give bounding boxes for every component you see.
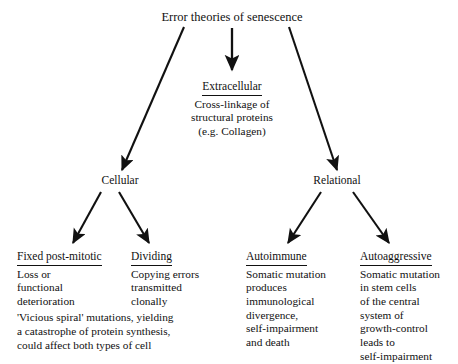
dividing-heading: Dividing	[131, 250, 172, 266]
node-cellular-label: Cellular	[70, 174, 170, 188]
arrow-relational-to-autoaggressive	[353, 192, 389, 243]
autoimmune-line-3: immunological	[246, 295, 354, 309]
autoaggressive-line-6: leads to	[360, 336, 458, 350]
autoimmune-line-6: and death	[246, 336, 354, 350]
autoaggressive-line-3: of the central	[360, 295, 458, 309]
autoaggressive-line-5: growth-control	[360, 322, 458, 336]
node-relational-label: Relational	[287, 174, 387, 188]
autoaggressive-line-4: system of	[360, 309, 458, 323]
extracellular-heading-wrap: Extracellular	[160, 76, 304, 96]
root-title: Error theories of senescence	[132, 10, 332, 25]
vicious-spiral-note-line-2: a catastrophe of protein synthesis,	[17, 325, 232, 339]
dividing-line-3: clonally	[131, 295, 227, 309]
autoaggressive-line-7: self-impairment	[360, 350, 458, 364]
root-title-text: Error theories of senescence	[161, 10, 302, 24]
node-autoaggressive: Autoaggressive Somatic mutation in stem …	[360, 246, 458, 364]
dividing-body: Copying errors transmitted clonally	[131, 268, 227, 309]
autoaggressive-line-1: Somatic mutation	[360, 268, 458, 282]
fixed-post-mitotic-line-2: functional	[17, 281, 122, 295]
vicious-spiral-note-line-3: could affect both types of cell	[17, 339, 232, 353]
dividing-line-1: Copying errors	[131, 268, 227, 282]
autoaggressive-line-2: in stem cells	[360, 281, 458, 295]
autoimmune-line-1: Somatic mutation	[246, 268, 354, 282]
arrow-cellular-to-fixed-post-mitotic	[73, 192, 101, 243]
vicious-spiral-note-line-1: 'Vicious spiral' mutations, yielding	[17, 311, 232, 325]
fixed-post-mitotic-body: Loss or functional deterioration	[17, 268, 122, 309]
autoaggressive-heading: Autoaggressive	[360, 250, 432, 266]
autoimmune-line-2: produces	[246, 281, 354, 295]
node-extracellular: Extracellular Cross-linkage of structura…	[160, 76, 304, 139]
arrow-relational-to-autoimmune	[288, 192, 321, 243]
node-dividing: Dividing Copying errors transmitted clon…	[131, 246, 227, 309]
dividing-heading-wrap: Dividing	[131, 246, 227, 266]
extracellular-body: Cross-linkage of structural proteins (e.…	[160, 98, 304, 139]
autoimmune-line-4: divergence,	[246, 309, 354, 323]
fixed-post-mitotic-heading-wrap: Fixed post-mitotic	[17, 246, 122, 266]
relational-label-text: Relational	[313, 174, 360, 186]
arrow-cellular-to-dividing	[119, 192, 149, 243]
fixed-post-mitotic-heading: Fixed post-mitotic	[17, 250, 102, 266]
extracellular-line-2: structural proteins	[160, 111, 304, 125]
autoimmune-heading: Autoimmune	[246, 250, 307, 266]
fixed-post-mitotic-line-3: deterioration	[17, 295, 122, 309]
fixed-post-mitotic-line-1: Loss or	[17, 268, 122, 282]
vicious-spiral-note: 'Vicious spiral' mutations, yielding a c…	[17, 311, 232, 353]
node-autoimmune: Autoimmune Somatic mutation produces imm…	[246, 246, 354, 350]
cellular-label-text: Cellular	[101, 174, 138, 186]
autoimmune-heading-wrap: Autoimmune	[246, 246, 354, 266]
diagram-canvas: Error theories of senescence Extracellul…	[0, 0, 458, 364]
extracellular-line-1: Cross-linkage of	[160, 98, 304, 112]
autoaggressive-heading-wrap: Autoaggressive	[360, 246, 458, 266]
autoaggressive-body: Somatic mutation in stem cells of the ce…	[360, 268, 458, 364]
extracellular-heading: Extracellular	[202, 80, 261, 96]
extracellular-line-3: (e.g. Collagen)	[160, 125, 304, 139]
node-fixed-post-mitotic: Fixed post-mitotic Loss or functional de…	[17, 246, 122, 309]
autoimmune-body: Somatic mutation produces immunological …	[246, 268, 354, 350]
dividing-line-2: transmitted	[131, 281, 227, 295]
autoimmune-line-5: self-impairment	[246, 322, 354, 336]
